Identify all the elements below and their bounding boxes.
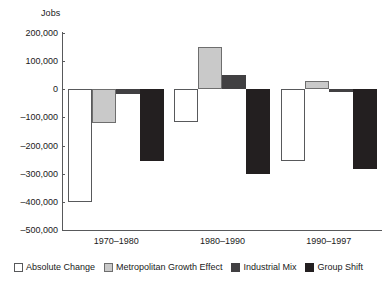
- y-axis-tick-mark: [62, 174, 65, 175]
- x-axis-tick-label: 1970–1980: [63, 236, 169, 247]
- legend-item-group-shift[interactable]: Group Shift: [305, 262, 363, 273]
- y-axis-tick-mark: [62, 33, 65, 34]
- y-axis-tick-label: 0: [0, 85, 58, 94]
- shift-share-bar-chart: Jobs 200,000100,0000–100,000–200,000–300…: [0, 0, 390, 285]
- y-axis-tick-mark: [62, 89, 65, 90]
- plot-area: [63, 33, 382, 230]
- y-axis-tick-label: –200,000: [0, 142, 58, 151]
- bar-metropolitan-growth-effect: [305, 81, 329, 89]
- bar-metropolitan-growth-effect: [92, 89, 116, 123]
- legend-swatch-industrial-mix: [231, 263, 240, 272]
- y-axis-tick-label: –400,000: [0, 198, 58, 207]
- y-axis-tick-label: –500,000: [0, 226, 58, 235]
- legend-item-absolute-change[interactable]: Absolute Change: [14, 262, 95, 273]
- bar-group: [63, 33, 169, 230]
- bar-absolute-change: [281, 89, 305, 161]
- legend-label: Absolute Change: [26, 262, 95, 273]
- bar-industrial-mix: [329, 89, 353, 92]
- legend-label: Metropolitan Growth Effect: [116, 262, 222, 273]
- legend-item-industrial-mix[interactable]: Industrial Mix: [231, 262, 296, 273]
- legend-label: Group Shift: [317, 262, 363, 273]
- legend-swatch-group-shift: [305, 263, 314, 272]
- bar-group: [276, 33, 382, 230]
- bar-group: [169, 33, 275, 230]
- legend-item-metropolitan-growth-effect[interactable]: Metropolitan Growth Effect: [104, 262, 222, 273]
- bar-industrial-mix: [222, 75, 246, 89]
- y-axis-tick-label: 100,000: [0, 57, 58, 66]
- y-axis-tick-label: –100,000: [0, 113, 58, 122]
- bar-absolute-change: [68, 89, 92, 202]
- bar-group-shift: [140, 89, 164, 161]
- x-axis-tick-label: 1980–1990: [169, 236, 275, 247]
- legend-swatch-absolute-change: [14, 263, 23, 272]
- chart-legend: Absolute ChangeMetropolitan Growth Effec…: [14, 262, 363, 273]
- y-axis-tick-mark: [62, 117, 65, 118]
- y-axis-tick-labels: 200,000100,0000–100,000–200,000–300,000–…: [0, 0, 58, 285]
- y-axis-tick-mark: [62, 61, 65, 62]
- bar-group-shift: [353, 89, 377, 169]
- y-axis-tick-mark: [62, 230, 65, 231]
- bar-group-shift: [246, 89, 270, 173]
- y-axis-tick-label: 200,000: [0, 29, 58, 38]
- bar-absolute-change: [174, 89, 198, 121]
- legend-swatch-metropolitan-growth-effect: [104, 263, 113, 272]
- y-axis-tick-label: –300,000: [0, 170, 58, 179]
- legend-label: Industrial Mix: [243, 262, 296, 273]
- y-axis-tick-mark: [62, 202, 65, 203]
- bar-metropolitan-growth-effect: [198, 47, 222, 89]
- bar-industrial-mix: [116, 89, 140, 93]
- y-axis-tick-mark: [62, 146, 65, 147]
- x-axis-tick-label: 1990–1997: [276, 236, 382, 247]
- x-axis-line: [62, 230, 382, 231]
